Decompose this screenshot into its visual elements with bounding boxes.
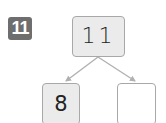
whole-box: 11 xyxy=(72,16,125,57)
part-box-right-answer[interactable] xyxy=(117,83,156,123)
arrow-to-left-part xyxy=(66,57,98,81)
arrow-to-right-part xyxy=(98,57,135,81)
part-box-left: 8 xyxy=(42,83,80,123)
